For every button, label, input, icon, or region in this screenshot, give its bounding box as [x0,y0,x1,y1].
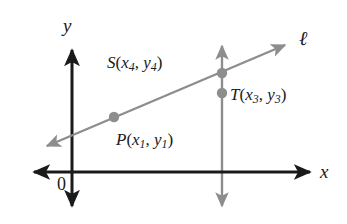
figure-canvas [0,0,347,224]
point-label-p-close-paren: ) [168,130,174,149]
point-label-s-y-var: y [143,53,151,72]
origin-label: 0 [57,175,66,193]
point-label-s: S(x4, y4) [107,54,162,74]
point-label-p-y-var: y [154,130,162,149]
point-label-t: T(x3, y3) [230,86,286,106]
point-label-s-close-paren: ) [157,53,163,72]
point-label-p-name: P [116,130,126,149]
point-label-s-separator: , [135,53,144,72]
y-axis-label: y [63,16,71,35]
point-label-t-x-var: x [245,85,253,104]
line-l-label: ℓ [299,28,307,48]
point-marker-s [217,68,227,78]
point-label-t-separator: , [259,85,268,104]
point-label-t-close-paren: ) [281,85,287,104]
point-label-p-x-var: x [132,130,140,149]
point-label-p-separator: , [146,130,155,149]
coordinate-plane-figure: y x 0 ℓ S(x4, y4) T(x3, y3) P(x1, y1) [0,0,347,224]
point-marker-p [109,112,119,122]
point-label-t-y-var: y [267,85,275,104]
x-axis-label: x [320,162,328,181]
point-label-s-name: S [107,53,116,72]
point-marker-t [217,88,227,98]
point-label-s-x-var: x [121,53,129,72]
point-label-p: P(x1, y1) [116,131,173,151]
